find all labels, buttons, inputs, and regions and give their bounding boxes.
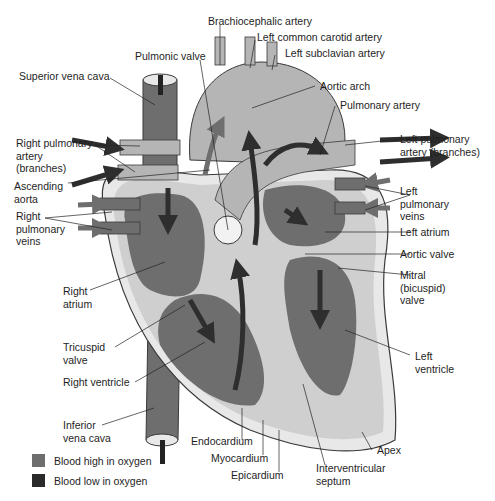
label-right-ventricle: Right ventricle: [63, 376, 130, 389]
label-right-pulmonary-artery: Right pulmonary artery (branches): [16, 137, 92, 175]
label-inferior-vena-cava: Inferior vena cava: [63, 419, 111, 444]
label-ascending-aorta: Ascending aorta: [14, 180, 63, 205]
label-left-pulmonary-veins: Left pulmonary veins: [400, 185, 449, 223]
legend-label-oxygen-high: Blood high in oxygen: [54, 455, 152, 468]
label-epicardium: Epicardium: [231, 469, 284, 482]
label-left-atrium: Left atrium: [400, 226, 450, 239]
label-left-subclavian-artery: Left subclavian artery: [285, 47, 385, 60]
label-left-pulmonary-artery: Left pulmonary artery (branches): [400, 133, 480, 158]
label-aortic-arch: Aortic arch: [320, 80, 370, 93]
label-tricuspid-valve: Tricuspid valve: [63, 341, 105, 366]
label-pulmonary-artery: Pulmonary artery: [340, 99, 420, 112]
label-superior-vena-cava: Superior vena cava: [19, 70, 109, 83]
label-aortic-valve: Aortic valve: [400, 248, 454, 261]
label-myocardium: Myocardium: [211, 452, 268, 465]
legend-swatch-oxygen-low: [32, 474, 45, 487]
label-left-ventricle: Left ventricle: [415, 350, 454, 375]
label-left-common-carotid-artery: Left common carotid artery: [257, 31, 382, 44]
legend-label-oxygen-low: Blood low in oxygen: [54, 475, 147, 488]
label-apex: Apex: [377, 444, 401, 457]
label-brachiocephalic-artery: Brachiocephalic artery: [208, 15, 312, 28]
label-right-pulmonary-veins: Right pulmonary veins: [16, 210, 65, 248]
label-endocardium: Endocardium: [191, 435, 253, 448]
legend-swatch-oxygen-high: [32, 454, 45, 467]
label-right-atrium: Right atrium: [63, 285, 92, 310]
label-pulmonic-valve: Pulmonic valve: [135, 50, 206, 63]
label-interventricular-septum: Interventricular septum: [316, 462, 385, 487]
label-mitral-valve: Mitral (bicuspid) valve: [400, 269, 446, 307]
